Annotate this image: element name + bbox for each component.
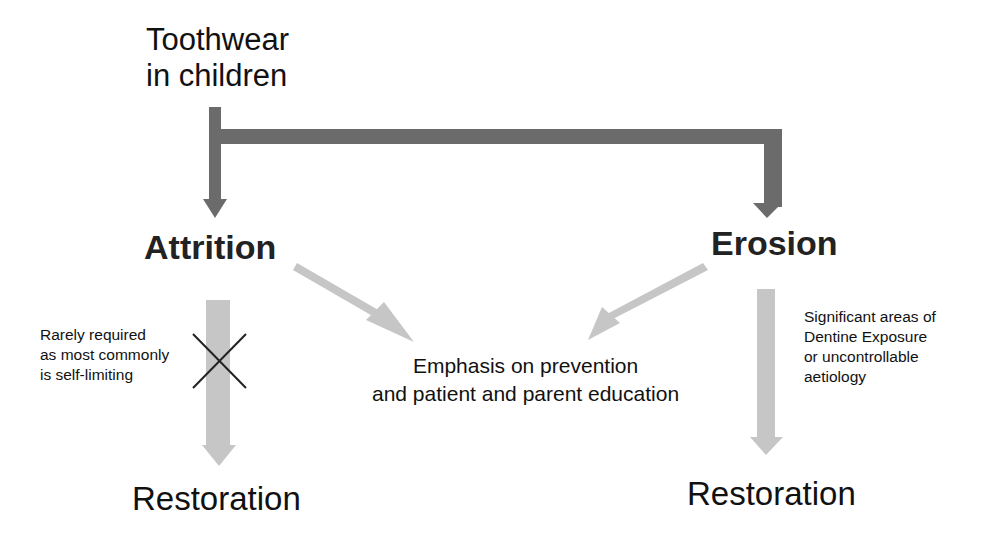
arrow-head-restoration-right-icon xyxy=(750,437,783,455)
root-connector-arrows xyxy=(203,107,782,218)
root-line-2: in children xyxy=(146,58,289,94)
attrition-note-line-1: Rarely required xyxy=(40,325,169,345)
root-to-attrition-shaft xyxy=(209,107,221,201)
erosion-note-line-2: Dentine Exposure xyxy=(804,327,936,347)
attrition-note-line-3: is self-limiting xyxy=(40,365,169,385)
erosion-note-line-4: aetiology xyxy=(804,367,936,387)
node-attrition: Attrition xyxy=(144,228,276,267)
horizontal-connector xyxy=(221,129,782,144)
arrow-head-erosion-icon xyxy=(753,203,782,218)
erosion-note-line-1: Significant areas of xyxy=(804,307,936,327)
node-prevention-education: Emphasis on prevention and patient and p… xyxy=(372,352,679,409)
attrition-note: Rarely required as most commonly is self… xyxy=(40,325,169,385)
root-to-erosion-shaft xyxy=(764,129,782,207)
erosion-note: Significant areas of Dentine Exposure or… xyxy=(804,307,936,388)
erosion-restoration: Restoration xyxy=(687,475,856,513)
attrition-restoration: Restoration xyxy=(132,480,301,518)
root-node-toothwear: Toothwear in children xyxy=(146,22,289,93)
erosion-note-line-3: or uncontrollable xyxy=(804,347,936,367)
arrow-head-attrition-icon xyxy=(203,199,227,218)
root-line-1: Toothwear xyxy=(146,22,289,58)
prevention-line-1: Emphasis on prevention xyxy=(372,352,679,380)
prevention-line-2: and patient and parent education xyxy=(372,380,679,408)
attrition-to-prevention-shaft xyxy=(293,263,380,318)
arrow-head-restoration-left-icon xyxy=(202,445,236,466)
attrition-note-line-2: as most commonly xyxy=(40,345,169,365)
erosion-to-prevention-shaft xyxy=(607,263,708,320)
node-erosion: Erosion xyxy=(711,224,838,263)
erosion-to-restoration-shaft xyxy=(757,289,775,439)
